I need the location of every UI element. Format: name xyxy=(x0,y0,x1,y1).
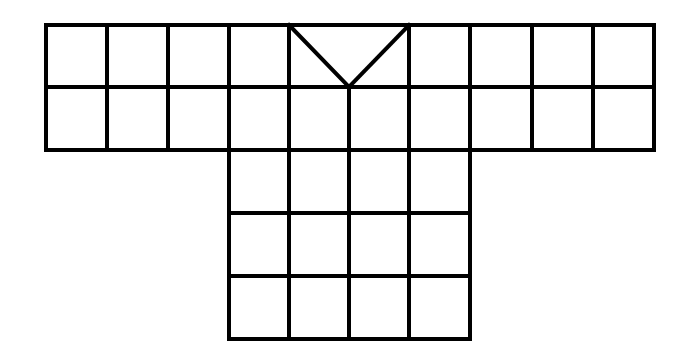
shirt-grid-diagram xyxy=(0,0,690,348)
v-neck-right-line xyxy=(349,25,409,87)
v-neck-left-line xyxy=(289,25,349,87)
grid-svg xyxy=(0,0,690,348)
